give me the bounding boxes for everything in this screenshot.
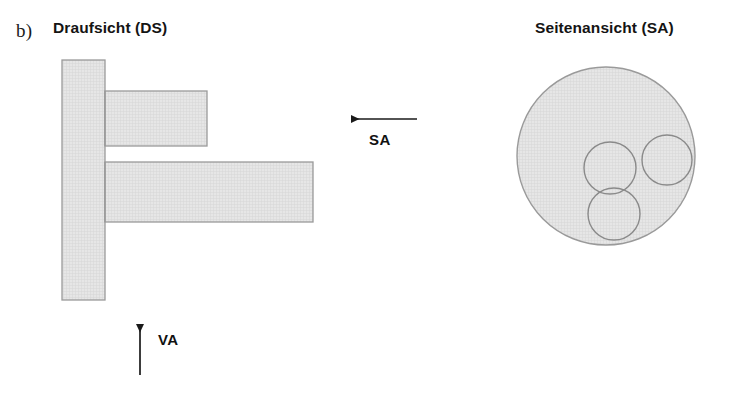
front-view-arrow-label: VA: [158, 331, 179, 348]
lower-horizontal-bar: [105, 162, 313, 222]
annotation-arrows: [140, 119, 417, 375]
vertical-flange-bar: [62, 60, 105, 300]
side-view-group: [517, 67, 695, 245]
drawing-canvas: [0, 0, 736, 395]
top-view-group: [62, 60, 313, 300]
technical-drawing-figure: b) Draufsicht (DS) Seitenansicht (SA): [0, 0, 736, 395]
outer-circle: [517, 67, 695, 245]
side-view-arrow-label: SA: [369, 131, 391, 148]
upper-horizontal-bar: [105, 91, 207, 146]
